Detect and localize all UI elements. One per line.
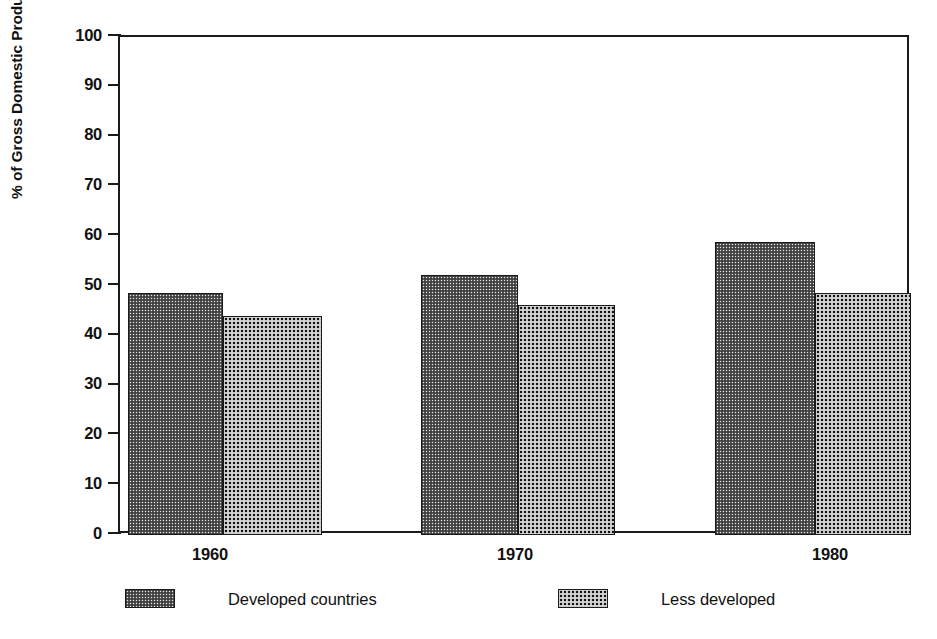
legend-label: Less developed xyxy=(661,588,775,610)
bar xyxy=(518,305,615,535)
y-tick-label: 80 xyxy=(56,126,102,143)
y-tick-label-wrap: 60 xyxy=(52,226,102,243)
bar xyxy=(128,293,223,535)
y-tick-label: 50 xyxy=(56,276,102,293)
y-axis-title: % of Gross Domestic Product xyxy=(8,0,32,199)
y-tick-label: 60 xyxy=(56,226,102,243)
bar xyxy=(715,242,815,535)
y-tick-label: 40 xyxy=(56,325,102,342)
y-tick-label-wrap: 30 xyxy=(52,375,102,392)
bar xyxy=(421,275,518,535)
y-tick-label-wrap: 10 xyxy=(52,475,102,492)
bar xyxy=(815,293,911,535)
plot-area xyxy=(118,35,909,533)
y-tick-label: 20 xyxy=(56,425,102,442)
x-tick-label: 1970 xyxy=(455,546,575,563)
y-tick-label: 90 xyxy=(56,76,102,93)
y-tick-label: 70 xyxy=(56,176,102,193)
y-tick-label-wrap: 80 xyxy=(52,126,102,143)
y-tick-label: 0 xyxy=(56,525,102,542)
x-tick-label: 1960 xyxy=(150,546,270,563)
y-tick-label-wrap: 70 xyxy=(52,176,102,193)
y-tick-label-wrap: 20 xyxy=(52,425,102,442)
y-tick-label: 30 xyxy=(56,375,102,392)
y-tick-label-wrap: 40 xyxy=(52,325,102,342)
x-tick-label: 1980 xyxy=(770,546,890,563)
y-tick-label-wrap: 50 xyxy=(52,276,102,293)
bar-chart: % of Gross Domestic Product 100908070605… xyxy=(0,0,937,639)
y-tick-label-wrap: 100 xyxy=(52,27,102,44)
y-tick-label-wrap: 0 xyxy=(52,525,102,542)
bar xyxy=(223,316,322,535)
legend-swatch-light xyxy=(125,589,175,608)
y-tick-label: 100 xyxy=(56,27,102,44)
y-tick-label-wrap: 90 xyxy=(52,76,102,93)
legend-label: Developed countries xyxy=(228,588,377,610)
legend-swatch-dark xyxy=(558,589,608,608)
y-tick-label: 10 xyxy=(56,475,102,492)
